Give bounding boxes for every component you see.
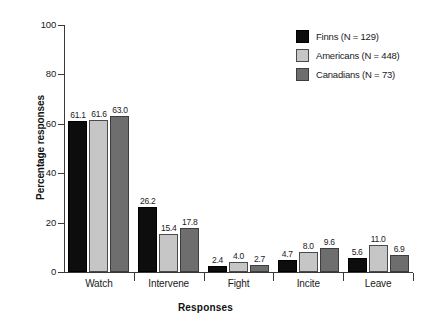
y-axis-tick-label: 60 (4, 118, 56, 129)
bar-value-label: 26.2 (131, 196, 165, 206)
bar[interactable] (348, 258, 367, 272)
legend-label: Finns (N = 129) (316, 31, 379, 42)
legend: Finns (N = 129)Americans (N = 448)Canadi… (296, 27, 439, 84)
x-axis-title-text: Responses (178, 302, 233, 313)
legend-item[interactable]: Finns (N = 129) (296, 27, 439, 45)
legend-label: Canadians (N = 73) (316, 69, 395, 80)
y-axis-tick-label: 0 (4, 266, 56, 277)
legend-item[interactable]: Canadians (N = 73) (296, 65, 439, 83)
bar-value-label: 11.0 (361, 234, 395, 244)
bar[interactable] (180, 228, 199, 272)
bar-group: 26.215.417.8 (138, 25, 199, 272)
legend-item[interactable]: Americans (N = 448) (296, 46, 439, 64)
bar[interactable] (68, 121, 87, 272)
x-axis-category-label: Leave (333, 278, 423, 289)
bar-chart: Percentage responses 020406080100 61.161… (0, 0, 439, 328)
bar[interactable] (159, 234, 178, 272)
y-axis-tick-label: 40 (4, 167, 56, 178)
x-axis-line (64, 272, 413, 273)
legend-label: Americans (N = 448) (316, 50, 400, 61)
bar-value-label: 63.0 (103, 105, 137, 115)
bar[interactable] (89, 120, 108, 272)
y-axis-tick-label: 80 (4, 68, 56, 79)
y-axis-tick-labels: 020406080100 (0, 0, 56, 328)
bar-group: 61.161.663.0 (68, 25, 129, 272)
bar[interactable] (250, 265, 269, 272)
bar-group: 2.44.02.7 (208, 25, 269, 272)
y-axis-tick-label: 20 (4, 217, 56, 228)
legend-swatch (296, 68, 309, 81)
legend-swatch (296, 49, 309, 62)
bar[interactable] (390, 255, 409, 272)
bar[interactable] (138, 207, 157, 272)
bar[interactable] (320, 248, 339, 272)
x-axis-title: Responses (0, 302, 439, 313)
bar-value-label: 17.8 (173, 217, 207, 227)
bar[interactable] (299, 252, 318, 272)
bar[interactable] (278, 260, 297, 272)
bar-value-label: 9.6 (312, 237, 346, 247)
y-axis-tick-label: 100 (4, 19, 56, 30)
bar[interactable] (110, 116, 129, 272)
bar-value-label: 6.9 (382, 244, 416, 254)
bar[interactable] (208, 266, 227, 272)
legend-swatch (296, 30, 309, 43)
